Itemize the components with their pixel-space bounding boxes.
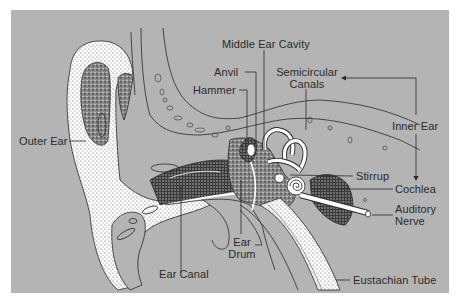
label-outer-ear: Outer Ear bbox=[19, 135, 68, 147]
label-hammer: Hammer bbox=[193, 84, 236, 96]
label-ear-drum: Ear Drum bbox=[225, 236, 259, 260]
label-auditory-nerve: Auditory Nerve bbox=[395, 203, 436, 227]
label-eustachian-tube: Eustachian Tube bbox=[353, 274, 436, 286]
arrow-to-cochlea-icon bbox=[414, 176, 419, 181]
label-middle-ear-cavity: Middle Ear Cavity bbox=[222, 38, 310, 50]
label-ear-canal: Ear Canal bbox=[159, 268, 209, 280]
label-inner-ear: Inner Ear bbox=[392, 120, 438, 132]
leader-stirrup bbox=[290, 175, 353, 176]
label-anvil: Anvil bbox=[214, 66, 238, 78]
label-stirrup: Stirrup bbox=[356, 170, 389, 182]
label-semicircular-canals: Semicircular Canals bbox=[271, 66, 343, 90]
label-cochlea: Cochlea bbox=[395, 183, 436, 195]
